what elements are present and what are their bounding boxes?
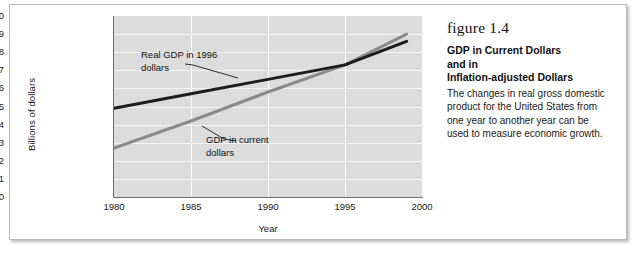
y-tick-label: 3 <box>0 138 4 148</box>
annotation-real-gdp: Real GDP in 1996 dollars <box>141 49 217 74</box>
y-tick-label: 7 <box>0 65 4 75</box>
x-tick-label: 1980 <box>89 201 139 212</box>
y-tick-label: 9 <box>0 29 4 39</box>
caption-title-line-3: Inflation-adjusted Dollars <box>447 71 613 85</box>
y-tick-label: 8 <box>0 47 4 57</box>
chart-region: Billions of dollars 012345678910 Real GD… <box>10 5 430 241</box>
y-tick-label: 2 <box>0 156 4 166</box>
y-tick-label: 0 <box>0 192 4 202</box>
x-tick-label: 2000 <box>397 201 447 212</box>
y-tick-label: 6 <box>0 83 4 93</box>
x-tick-label: 1985 <box>166 201 216 212</box>
x-axis-title: Year <box>114 223 422 234</box>
caption-title-line-2: and in <box>447 58 613 72</box>
caption-body: The changes in real gross domestic produ… <box>447 87 613 141</box>
annotation-current-gdp: GDP in current dollars <box>206 134 269 159</box>
y-tick-label: 5 <box>0 102 4 112</box>
caption-title-line-1: GDP in Current Dollars <box>447 44 613 58</box>
y-tick-label: 4 <box>0 120 4 130</box>
y-tick-label: 1 <box>0 174 4 184</box>
caption-panel: figure 1.4 GDP in Current Dollars and in… <box>447 19 613 141</box>
x-tick-label: 1990 <box>243 201 293 212</box>
figure-number: figure 1.4 <box>447 19 613 37</box>
x-tick-label: 1995 <box>320 201 370 212</box>
y-tick-label: 10 <box>0 11 4 21</box>
caption-title: GDP in Current Dollars and in Inflation-… <box>447 44 613 85</box>
figure-container: Billions of dollars 012345678910 Real GD… <box>9 4 627 240</box>
